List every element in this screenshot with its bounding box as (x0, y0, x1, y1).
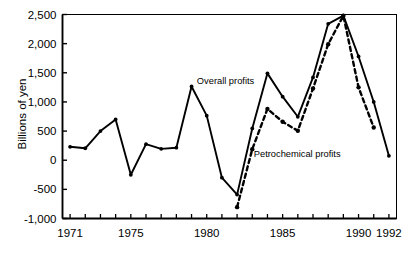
x-tick-label: 1980 (194, 227, 220, 239)
data-point-marker (129, 173, 133, 177)
y-tick-label: 2,500 (28, 9, 57, 21)
series-annotations: Overall profitsPetrochemical profits (197, 76, 341, 159)
chart-figure: Billions of yen -1,000-50005001,0001,500… (0, 0, 410, 255)
data-point-marker (372, 125, 376, 129)
data-point-marker (281, 95, 285, 99)
y-axis-tick-labels: -1,000-50005001,0001,5002,0002,500 (24, 9, 57, 225)
y-tick-label: 1,500 (28, 67, 57, 79)
data-point-marker (372, 100, 376, 104)
data-point-marker (68, 145, 72, 149)
data-point-marker (83, 146, 87, 150)
x-tick-label: 1990 (346, 227, 372, 239)
axes (63, 15, 397, 219)
data-point-marker (341, 13, 345, 17)
data-point-marker (114, 118, 118, 122)
data-point-marker (220, 176, 224, 180)
x-tick-label: 1971 (57, 227, 83, 239)
data-point-markers (68, 13, 391, 209)
x-axis-tick-labels: 197119751980198519901992 (57, 227, 401, 239)
data-point-marker (311, 76, 315, 80)
data-point-marker (387, 154, 391, 158)
data-point-marker (159, 147, 163, 151)
data-point-marker (356, 85, 360, 89)
data-point-marker (357, 55, 361, 59)
x-tick-label: 1975 (118, 227, 144, 239)
data-point-marker (326, 42, 330, 46)
data-point-marker (296, 115, 300, 119)
data-point-marker (205, 114, 209, 118)
data-point-marker (99, 129, 103, 133)
y-tick-label: -500 (33, 183, 56, 195)
x-tick-label: 1985 (270, 227, 296, 239)
data-point-marker (174, 146, 178, 150)
data-point-marker (250, 127, 254, 131)
data-point-marker (265, 107, 269, 111)
y-tick-label: 2,000 (28, 38, 57, 50)
data-point-marker (190, 85, 194, 89)
series-annotation-label: Overall profits (197, 76, 255, 86)
y-tick-label: 0 (50, 154, 56, 166)
x-tick-label: 1992 (376, 227, 402, 239)
line-chart-plot: -1,000-50005001,0001,5002,0002,500 19711… (0, 0, 410, 255)
y-tick-label: 500 (37, 125, 56, 137)
data-point-marker (266, 71, 270, 75)
y-tick-label: -1,000 (24, 213, 57, 225)
data-point-marker (311, 86, 315, 90)
data-series (70, 16, 389, 207)
data-point-marker (144, 142, 148, 146)
series-annotation-label: Petrochemical profits (254, 149, 341, 159)
data-point-marker (235, 193, 239, 197)
data-point-marker (326, 22, 330, 26)
series-line-1 (70, 16, 389, 195)
data-point-marker (280, 120, 284, 124)
y-tick-label: 1,000 (28, 96, 57, 108)
data-point-marker (296, 129, 300, 133)
data-point-marker (235, 205, 239, 209)
